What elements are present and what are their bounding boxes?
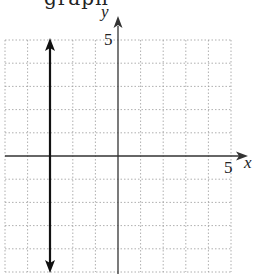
y-axis-label: y <box>99 2 109 21</box>
x-axis <box>5 152 248 161</box>
x-axis-label: x <box>243 153 252 172</box>
y-axis <box>114 16 123 274</box>
x-tick-label-5: 5 <box>224 158 233 177</box>
coordinate-plane: y 5 5 x <box>0 0 256 274</box>
y-tick-label-5: 5 <box>104 30 113 49</box>
